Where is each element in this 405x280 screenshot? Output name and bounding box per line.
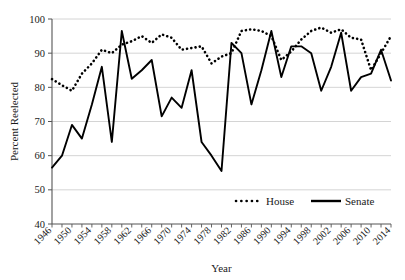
y-axis-tick-label: 100	[29, 14, 45, 25]
x-axis-tick-label: 1970	[151, 225, 173, 247]
x-axis-title: Year	[211, 262, 232, 274]
series-line-senate	[52, 31, 391, 171]
y-axis-tick-label: 70	[35, 116, 46, 127]
legend-label-senate: Senate	[345, 195, 374, 207]
x-axis-tick-label: 1982	[211, 225, 233, 247]
reelection-rate-chart: 405060708090100Percent Reelected19461950…	[0, 0, 405, 280]
x-axis-tick-label: 1950	[51, 225, 73, 247]
x-axis-tick-label: 1978	[191, 225, 213, 247]
x-axis-tick-label: 1990	[251, 225, 273, 247]
x-axis-tick-label: 2006	[331, 225, 353, 247]
x-axis-tick-label: 2010	[351, 225, 373, 247]
x-axis-tick-label: 1966	[131, 225, 153, 247]
chart-canvas: 405060708090100Percent Reelected19461950…	[0, 0, 405, 280]
x-axis-tick-label: 2014	[370, 225, 392, 247]
y-axis-tick-label: 80	[35, 82, 46, 93]
y-axis-title: Percent Reelected	[8, 81, 20, 161]
x-axis-tick-label: 1958	[91, 225, 113, 247]
x-axis-tick-label: 2002	[311, 225, 333, 247]
y-axis-tick-label: 50	[35, 184, 46, 195]
y-axis-tick-label: 60	[35, 150, 46, 161]
x-axis-tick-label: 1962	[111, 225, 133, 247]
y-axis-tick-label: 90	[35, 48, 46, 59]
x-axis-tick-label: 1974	[171, 225, 193, 247]
legend-label-house: House	[266, 195, 294, 207]
x-axis-tick-label: 1998	[291, 225, 313, 247]
x-axis-tick-label: 1994	[271, 225, 293, 247]
x-axis-tick-label: 1954	[71, 225, 93, 247]
x-axis-tick-label: 1986	[231, 225, 253, 247]
